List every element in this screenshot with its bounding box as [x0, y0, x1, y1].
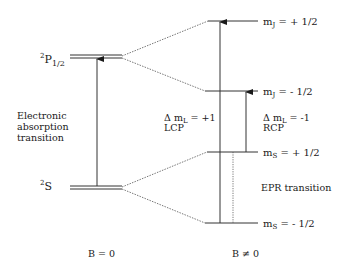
label-2s: 2S	[40, 179, 52, 193]
energy-level-diagram: 2P1/2 2S Electronic absorption transitio…	[0, 0, 339, 271]
label-ms-minus: mS = - 1/2	[263, 218, 315, 231]
label-mj-minus: mJ = - 1/2	[263, 86, 313, 99]
level-2s	[70, 186, 122, 189]
epr-label: EPR transition	[261, 182, 331, 193]
field-label-zero: B = 0	[88, 248, 115, 259]
label-ms-plus: mS = + 1/2	[263, 147, 320, 160]
lcp-annotation: Δ mL = +1 LCP	[164, 112, 219, 133]
label-2p-half: 2P1/2	[40, 52, 65, 68]
label-mj-plus: mJ = + 1/2	[263, 16, 318, 29]
absorption-label: Electronic absorption transition	[17, 110, 72, 143]
rcp-annotation: Δ mL = -1 RCP	[263, 112, 313, 133]
field-label-nonzero: B ≠ 0	[232, 248, 259, 259]
level-2p-half	[70, 55, 122, 58]
